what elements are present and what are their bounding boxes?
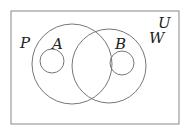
label-w: W [149,29,166,47]
label-b: B [114,35,126,53]
label-a: A [50,35,63,53]
set-w-circle [72,29,146,103]
set-b-circle [110,51,134,75]
label-p: P [19,34,31,52]
universal-set-rectangle [11,11,179,124]
venn-diagram: U W P A B [0,0,186,133]
